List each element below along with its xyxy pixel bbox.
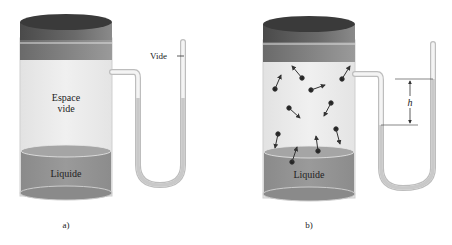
lid-top-b — [263, 16, 355, 32]
caption-a: a) — [63, 220, 70, 230]
flask-bottom-b — [263, 187, 355, 201]
liquid-surface-b — [264, 146, 354, 158]
panel-a: Espace vide Liquide Vide a) — [20, 14, 184, 230]
vacuum-label: Vide — [150, 51, 167, 61]
lid-top-a — [20, 14, 112, 30]
empty-space-label-2: vide — [57, 103, 75, 114]
empty-space-label: Espace — [52, 92, 81, 103]
manometer-a — [112, 42, 184, 185]
vapor-pressure-diagram: Espace vide Liquide Vide a) — [0, 0, 452, 245]
panel-b: h Liquide b) — [263, 16, 433, 230]
flask-bottom-a — [20, 186, 112, 200]
liquid-label-a: Liquide — [50, 168, 82, 179]
liquid-surface-a — [21, 145, 111, 157]
height-label: h — [408, 97, 413, 108]
liquid-label-b: Liquide — [293, 169, 325, 180]
caption-b: b) — [305, 220, 313, 230]
manometer-b — [355, 44, 433, 188]
